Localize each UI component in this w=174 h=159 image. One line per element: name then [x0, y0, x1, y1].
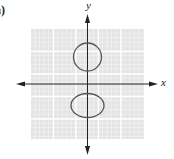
- x-axis-right-arrow-icon: [149, 82, 158, 87]
- y-axis-bottom-arrow-icon: [85, 146, 90, 155]
- graph: [0, 0, 174, 159]
- y-axis-label: y: [86, 0, 91, 11]
- y-axis-top-arrow-icon: [85, 14, 90, 23]
- x-axis-label: x: [161, 76, 166, 88]
- x-axis-left-arrow-icon: [16, 82, 25, 87]
